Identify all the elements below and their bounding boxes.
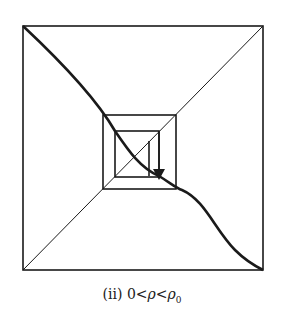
figure-caption: (ii) 0<ρ<ρ0 <box>0 286 284 305</box>
caption-var: ρ <box>148 286 156 302</box>
caption-lhs: 0 <box>127 286 136 302</box>
cobweb-diagram <box>0 0 284 312</box>
caption-rhs-sub: 0 <box>176 295 182 305</box>
caption-rhs: ρ <box>168 286 176 302</box>
caption-lt2: < <box>156 286 168 302</box>
caption-lt1: < <box>136 286 148 302</box>
caption-label: (ii) <box>103 286 123 302</box>
